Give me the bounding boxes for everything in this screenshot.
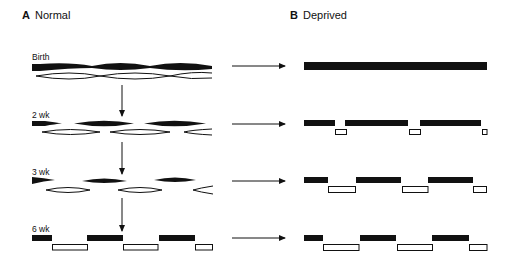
normal-birth-row <box>32 63 212 79</box>
black-stripe-6wk-0 <box>32 235 52 241</box>
black-lens-2wk-2 <box>144 121 206 127</box>
open-lens-birth-3 <box>170 72 212 78</box>
black-lens-3wk-1 <box>82 179 127 184</box>
open-stripe-6wk-1 <box>53 245 88 251</box>
open-stripe-d6wk-2 <box>398 245 433 251</box>
black-lens-3wk-2 <box>154 178 196 183</box>
black-stripe-d2wk-2 <box>345 120 408 126</box>
open-lens-2wk-2 <box>110 130 170 135</box>
black-stripe-d6wk-2 <box>360 235 396 241</box>
open-lens-2wk-3 <box>184 129 212 135</box>
open-lens-2wk-1 <box>42 130 100 135</box>
black-stripe-d3wk-2 <box>356 177 401 183</box>
black-stripe-d6wk-1 <box>304 235 323 241</box>
black-stripe-d2wk-3 <box>420 120 481 126</box>
black-band-birth <box>32 63 212 71</box>
open-lens-birth-1 <box>36 73 100 79</box>
open-stripe-6wk-2 <box>124 245 159 251</box>
normal-3wk-row <box>32 177 213 194</box>
black-band-deprived-birth <box>304 62 487 70</box>
black-stripe-d3wk-3 <box>428 177 473 183</box>
open-stripe-d2wk-2 <box>410 130 421 135</box>
black-stripe-d6wk-3 <box>432 235 469 241</box>
open-lens-3wk-3 <box>193 186 213 194</box>
open-stripe-d2wk-1 <box>336 130 347 135</box>
black-stripe-6wk-1 <box>87 235 123 241</box>
ocular-dominance-diagram <box>0 0 510 264</box>
black-stripe-d3wk-1 <box>304 177 328 183</box>
open-stripe-6wk-3 <box>196 245 213 251</box>
black-stripe-d2wk-1 <box>304 120 335 126</box>
normal-6wk-row <box>32 235 213 250</box>
open-stripe-d2wk-3 <box>483 130 488 135</box>
open-stripe-d3wk-2 <box>403 187 429 193</box>
open-stripe-d6wk-1 <box>324 245 360 251</box>
open-lens-birth-2 <box>100 73 170 79</box>
open-stripe-d3wk-1 <box>329 187 356 193</box>
deprived-2wk-row <box>304 120 487 135</box>
open-stripe-d3wk-3 <box>474 187 487 193</box>
open-lens-3wk-1 <box>46 188 90 193</box>
black-lens-2wk-0 <box>32 121 62 126</box>
black-lens-3wk-0 <box>32 177 55 184</box>
black-stripe-6wk-2 <box>159 235 195 241</box>
normal-2wk-row <box>32 121 212 135</box>
open-stripe-d6wk-3 <box>470 245 488 251</box>
black-lens-2wk-1 <box>74 121 134 127</box>
deprived-3wk-row <box>304 177 487 193</box>
open-lens-3wk-2 <box>118 188 162 193</box>
deprived-birth-row <box>304 62 487 70</box>
deprived-6wk-row <box>304 235 487 251</box>
